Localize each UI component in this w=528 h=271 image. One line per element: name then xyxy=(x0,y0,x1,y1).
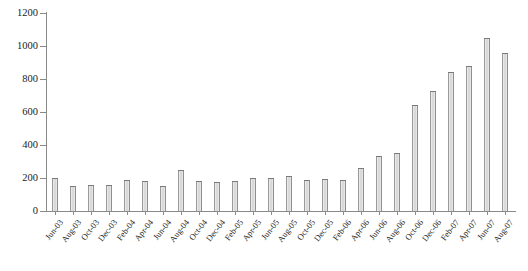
bar xyxy=(466,66,472,211)
bar xyxy=(376,156,382,211)
y-axis-tick-label-text: 800 xyxy=(4,74,38,84)
x-axis-tick xyxy=(127,211,128,215)
x-axis-tick-label: Apr-06 xyxy=(349,218,371,243)
y-axis-tick-label-text: 1200 xyxy=(4,8,38,18)
bar xyxy=(196,181,202,211)
x-axis-tick xyxy=(487,211,488,215)
y-axis-tick-label: 600 xyxy=(0,107,38,117)
x-axis-tick xyxy=(235,211,236,215)
x-axis-tick xyxy=(289,211,290,215)
x-axis-tick-label: Feb-06 xyxy=(331,218,353,243)
bar xyxy=(484,38,490,211)
x-axis-tick xyxy=(379,211,380,215)
x-axis-tick-label: Feb-07 xyxy=(439,218,461,243)
bar xyxy=(412,105,418,211)
y-axis-tick-label: 800 xyxy=(0,74,38,84)
x-axis-tick-label: Apr-04 xyxy=(133,218,155,243)
x-axis-tick xyxy=(55,211,56,215)
y-axis-tick-label: 400 xyxy=(0,140,38,150)
x-axis-tick xyxy=(307,211,308,215)
x-axis-tick xyxy=(433,211,434,215)
x-axis-tick xyxy=(343,211,344,215)
bar xyxy=(268,178,274,211)
bar xyxy=(286,176,292,211)
bar xyxy=(178,170,184,211)
x-axis-tick-label: Feb-04 xyxy=(115,218,137,243)
bar xyxy=(304,180,310,211)
y-axis-tick-label-text: 600 xyxy=(4,107,38,117)
bar xyxy=(340,180,346,211)
y-axis-tick-label: 200 xyxy=(0,173,38,183)
bar xyxy=(448,72,454,211)
x-axis-tick xyxy=(415,211,416,215)
x-axis-tick xyxy=(73,211,74,215)
bar xyxy=(232,181,238,211)
x-axis-tick xyxy=(361,211,362,215)
x-axis-tick xyxy=(253,211,254,215)
x-axis-tick xyxy=(325,211,326,215)
y-axis-tick-label: 1000 xyxy=(0,41,38,51)
y-axis-tick-label-text: 400 xyxy=(4,140,38,150)
x-axis-tick xyxy=(451,211,452,215)
x-axis-tick xyxy=(397,211,398,215)
x-axis-tick xyxy=(91,211,92,215)
x-axis-tick xyxy=(181,211,182,215)
bars-container xyxy=(46,13,514,211)
x-axis-tick-label: Apr-05 xyxy=(241,218,263,243)
y-axis-tick-label-text: 0 xyxy=(4,206,38,216)
x-axis-tick xyxy=(163,211,164,215)
bar xyxy=(394,153,400,211)
bar xyxy=(88,185,94,211)
bar xyxy=(358,168,364,211)
y-axis-tick-label: 0 xyxy=(0,206,38,216)
bar xyxy=(322,179,328,211)
bar xyxy=(142,181,148,211)
bar-chart: 020040060080010001200 Jun-03Aug-03Oct-03… xyxy=(0,0,528,271)
y-axis-tick-label: 1200 xyxy=(0,8,38,18)
bar xyxy=(430,91,436,211)
y-axis-tick-label-text: 200 xyxy=(4,173,38,183)
x-axis-tick xyxy=(109,211,110,215)
x-axis-line xyxy=(46,211,516,212)
x-axis-tick xyxy=(505,211,506,215)
bar xyxy=(250,178,256,211)
bar xyxy=(502,53,508,211)
bar xyxy=(52,178,58,211)
x-axis-tick xyxy=(469,211,470,215)
x-axis-tick xyxy=(217,211,218,215)
bar xyxy=(106,185,112,211)
x-axis-tick xyxy=(145,211,146,215)
y-axis-tick-label-text: 1000 xyxy=(4,41,38,51)
bar xyxy=(214,182,220,211)
bar xyxy=(70,186,76,211)
plot-area xyxy=(46,13,514,211)
bar xyxy=(160,186,166,211)
x-axis-tick xyxy=(271,211,272,215)
x-axis-tick-label: Feb-05 xyxy=(223,218,245,243)
bar xyxy=(124,180,130,211)
x-axis-tick xyxy=(199,211,200,215)
x-axis-tick-label: Apr-07 xyxy=(457,218,479,243)
